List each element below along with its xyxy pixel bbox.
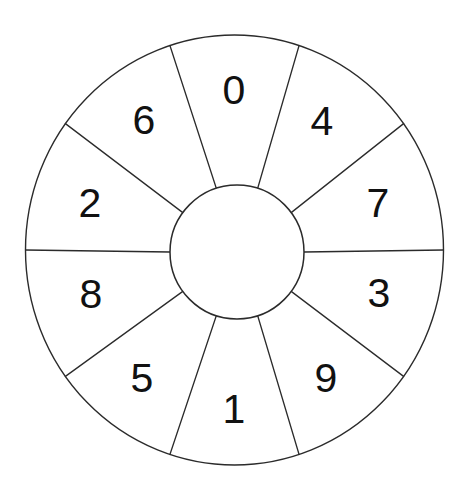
segment-label-2: 2 xyxy=(79,180,102,226)
segment-label-0: 0 xyxy=(223,67,246,113)
number-wheel-figure: 0473915826 xyxy=(0,0,468,494)
segment-label-4: 4 xyxy=(311,98,334,144)
segment-label-1: 1 xyxy=(223,386,246,432)
inner-hub-circle xyxy=(170,185,304,319)
number-wheel-svg: 0473915826 xyxy=(0,0,468,494)
segment-label-7: 7 xyxy=(367,180,390,226)
segment-label-6: 6 xyxy=(133,97,156,143)
segment-label-9: 9 xyxy=(315,355,338,401)
segment-label-3: 3 xyxy=(368,270,391,316)
segment-label-5: 5 xyxy=(131,355,154,401)
segment-label-8: 8 xyxy=(80,271,103,317)
